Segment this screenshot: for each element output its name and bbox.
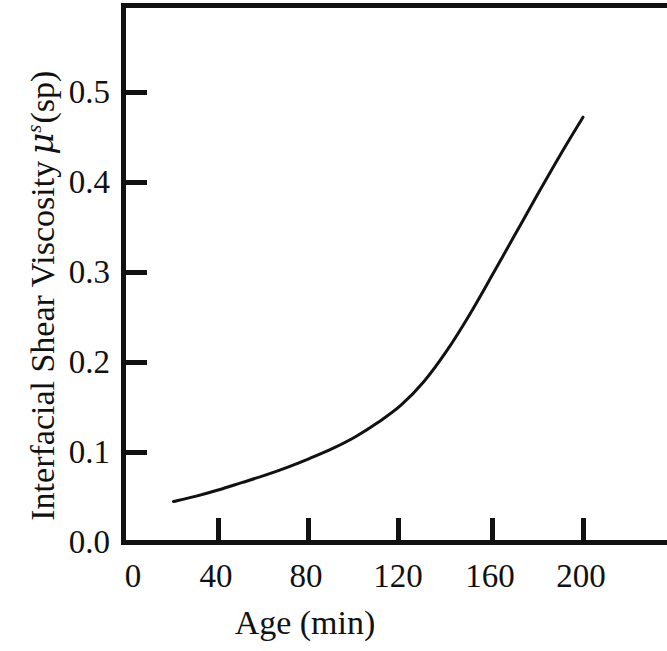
x-axis-title: Age (min) — [0, 606, 610, 640]
mu-superscript-s: s — [22, 124, 46, 133]
y-axis-title-text: Interfacial Shear Viscosity — [24, 161, 61, 521]
data-series-line — [174, 117, 584, 501]
y-axis-ticks — [123, 92, 147, 452]
x-tick-label-80: 80 — [290, 560, 323, 593]
x-tick-label-120: 120 — [373, 560, 423, 593]
mu-symbol: μ — [22, 133, 62, 161]
x-tick-label-0: 0 — [125, 560, 142, 593]
x-tick-label-40: 40 — [200, 560, 233, 593]
x-tick-label-200: 200 — [556, 560, 606, 593]
chart-figure: 0.5 0.4 0.3 0.2 0.1 0.0 0 40 80 120 160 … — [0, 0, 667, 651]
y-axis-title-units: (sp) — [24, 71, 61, 124]
x-tick-label-160: 160 — [465, 560, 515, 593]
y-axis-title: Interfacial Shear Viscosityμs(sp) — [24, 16, 59, 576]
axis-spines — [121, 5, 667, 542]
x-axis-ticks — [218, 518, 583, 542]
